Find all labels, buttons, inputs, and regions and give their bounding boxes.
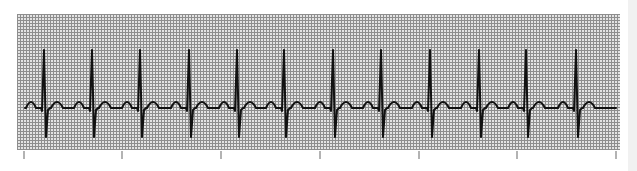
time-axis-ticks: [24, 151, 616, 159]
ecg-chart: [0, 0, 637, 171]
ecg-strip: [0, 0, 637, 171]
edge-strip: [628, 0, 637, 171]
